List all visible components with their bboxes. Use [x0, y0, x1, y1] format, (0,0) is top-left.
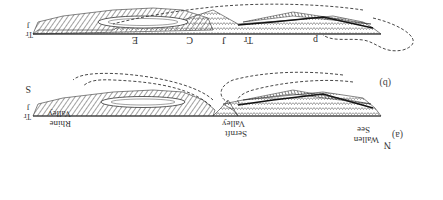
label-j-end-b: J [27, 20, 30, 28]
cross-section-drawings [0, 0, 443, 200]
rhine-valley-label-2: Valley [48, 109, 71, 118]
label-c: C [186, 35, 193, 45]
panel-b-label: (b) [379, 78, 391, 88]
rhine-valley-label-1: Rhine [50, 119, 72, 128]
wallen-see-label-2: See [357, 125, 370, 134]
label-j-end-a: J [27, 102, 30, 110]
label-tr: Tr [244, 35, 253, 45]
sernft-valley-label-1: Sernft [225, 129, 247, 138]
wallen-see-label-1: Wallen [354, 135, 379, 144]
north-label: N [384, 140, 391, 150]
label-tr-end-a: Tr [24, 112, 31, 120]
geologic-cross-section-figure: E C J Tr p Tr J (b) Tr J S N (a) Wallen … [0, 0, 443, 200]
panel-a-label: (a) [392, 130, 403, 140]
label-p: p [313, 35, 318, 45]
label-e: E [132, 35, 138, 45]
label-j: J [222, 35, 226, 45]
south-label: S [25, 84, 31, 94]
panel-a-section [33, 72, 381, 116]
label-tr-end-b: Tr [26, 30, 33, 38]
sernft-valley-label-2: Valley [222, 119, 245, 128]
